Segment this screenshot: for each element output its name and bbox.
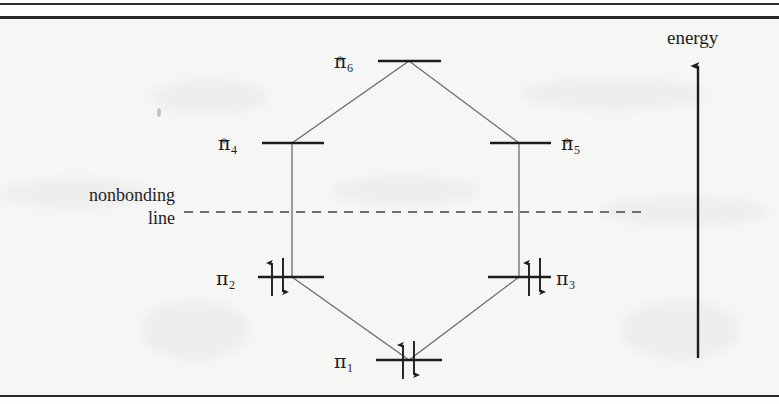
pi-glyph: π [334,350,347,372]
orbital-label-pi1: π1 [334,352,353,374]
connector-pi2-pi1 [292,277,409,360]
subscript-number: 3 [569,278,575,292]
subscript-number: 4 [231,143,237,157]
superscript-star: * [221,137,228,151]
orbital-label-pi4star: π*4 [218,134,237,156]
energy-axis-label: energy [667,28,718,47]
level-connectors [292,61,519,360]
orbital-label-pi2: π2 [216,269,235,291]
orbital-label-pi6star: π*6 [334,52,353,74]
connector-pi6star-pi5star [409,61,519,143]
subscript-number: 1 [347,361,353,375]
superscript-star: * [564,137,571,151]
nonbonding-label-line-2: line [20,207,175,230]
nonbonding-line-label: nonbonding line [20,184,175,229]
scanned-page: π*6 π*4 π*5 π2 π3 π1 nonbonding line ene… [0,0,779,404]
pi-glyph: π [216,267,229,289]
orbital-level-lines [258,61,551,360]
subscript-number: 5 [574,143,580,157]
orbital-label-pi3: π3 [556,269,575,291]
subscript-number: 6 [347,61,353,75]
subscript-number: 2 [229,278,235,292]
orbital-label-pi5star: π*5 [561,134,580,156]
nonbonding-label-line-1: nonbonding [20,184,175,207]
connector-pi1-pi3 [409,277,519,360]
superscript-star: * [337,55,344,69]
pi-glyph: π [556,267,569,289]
